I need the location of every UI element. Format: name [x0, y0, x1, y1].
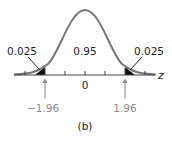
left-tail-leader: [28, 57, 40, 70]
middle-area-label: 0.95: [73, 45, 96, 57]
left-critical-label: −1.96: [27, 102, 59, 114]
right-tail-leader: [130, 57, 142, 70]
normal-curve-diagram: 0.025 0.95 0.025 z 0 −1.96 1.96 (b): [0, 0, 172, 142]
z-axis-label: z: [157, 69, 164, 82]
right-critical-label: 1.96: [113, 102, 137, 114]
right-critical-arrow: [123, 79, 128, 100]
left-tail-label: 0.025: [7, 45, 37, 57]
figure-caption: (b): [78, 120, 93, 132]
left-critical-arrow: [43, 79, 48, 100]
right-tail-label: 0.025: [134, 45, 164, 57]
zero-tick-label: 0: [82, 79, 89, 91]
